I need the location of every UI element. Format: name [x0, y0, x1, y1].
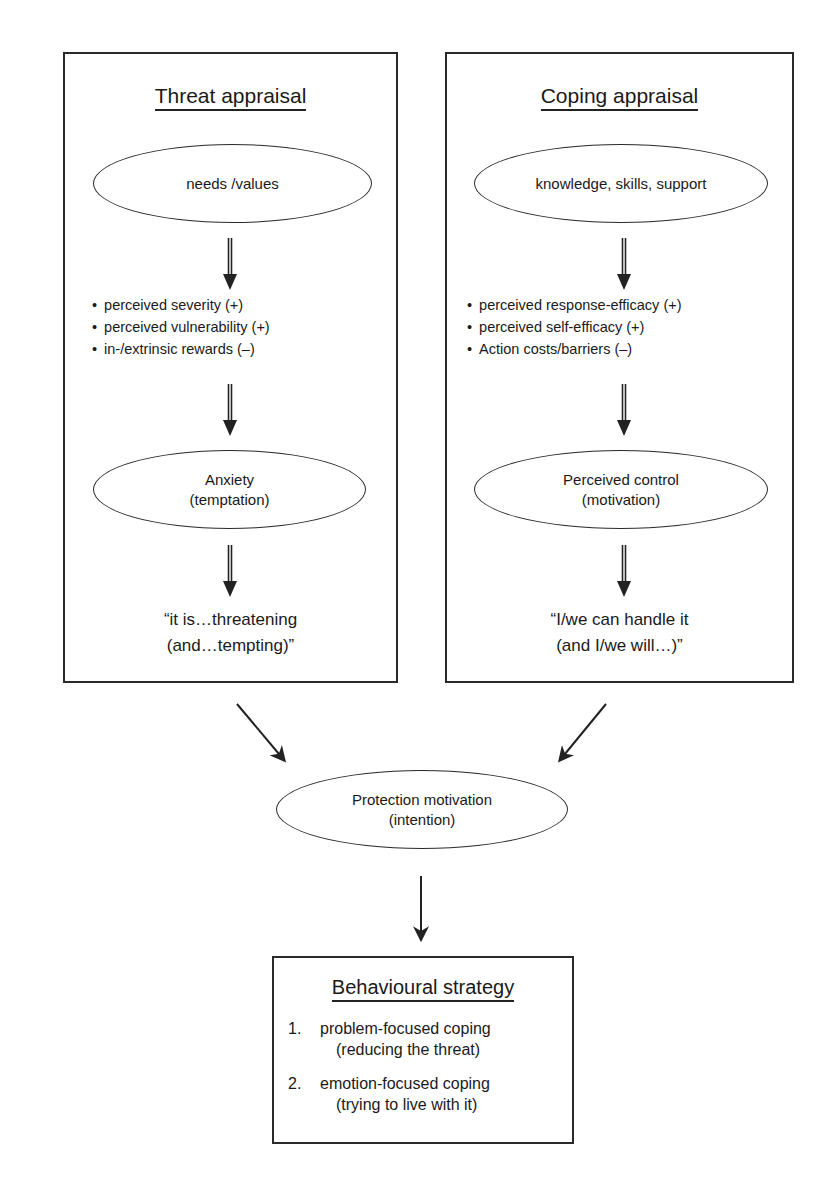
item-line2: (reducing the threat): [320, 1039, 491, 1060]
double-line-down-arrow-icon: [617, 545, 631, 597]
protection-motivation-label: Protection motivation: [352, 790, 492, 810]
coping-quote-line1: “I/we can handle it: [447, 607, 792, 633]
threat-appraisal-title-text: Threat appraisal: [155, 84, 307, 111]
needs-values-label: needs /values: [186, 174, 279, 194]
item-line1: emotion-focused coping: [320, 1073, 490, 1094]
coping-factors-list: perceived response-efficacy (+) perceive…: [467, 294, 682, 360]
motivation-label: (motivation): [582, 490, 660, 510]
double-line-down-arrow-icon: [223, 545, 237, 597]
threat-quote-line2: (and…tempting)”: [65, 633, 396, 659]
double-line-down-arrow-icon: [223, 238, 237, 290]
coping-quote-line2: (and I/we will…)”: [447, 633, 792, 659]
coping-appraisal-panel: Coping appraisal knowledge, skills, supp…: [445, 52, 794, 683]
anxiety-label: Anxiety: [205, 470, 254, 490]
threat-quote-line1: “it is…threatening: [65, 607, 396, 633]
item-number: 1.: [288, 1018, 301, 1039]
intention-label: (intention): [389, 810, 456, 830]
knowledge-skills-support-label: knowledge, skills, support: [536, 174, 707, 194]
item-number: 2.: [288, 1073, 301, 1094]
behavioural-strategy-title-text: Behavioural strategy: [332, 976, 514, 1002]
double-line-down-arrow-icon: [617, 238, 631, 290]
diagonal-arrow-icon: [237, 704, 284, 760]
threat-factors-list: perceived severity (+) perceived vulnera…: [92, 294, 270, 360]
factor-perceived-vulnerability: perceived vulnerability (+): [92, 316, 270, 338]
threat-appraisal-title: Threat appraisal: [65, 84, 396, 108]
perceived-control-node: Perceived control (motivation): [474, 450, 768, 529]
coping-appraisal-title-text: Coping appraisal: [541, 84, 699, 111]
anxiety-node: Anxiety (temptation): [93, 450, 366, 529]
factor-perceived-severity: perceived severity (+): [92, 294, 270, 316]
factor-response-efficacy: perceived response-efficacy (+): [467, 294, 682, 316]
item-line2: (trying to live with it): [320, 1094, 490, 1115]
factor-self-efficacy: perceived self-efficacy (+): [467, 316, 682, 338]
needs-values-node: needs /values: [93, 144, 372, 223]
coping-appraisal-title: Coping appraisal: [447, 84, 792, 108]
threat-appraisal-quote: “it is…threatening (and…tempting)”: [65, 607, 396, 659]
item-line1: problem-focused coping: [320, 1018, 491, 1039]
double-line-down-arrow-icon: [617, 384, 631, 436]
protection-motivation-node: Protection motivation (intention): [276, 770, 568, 849]
threat-appraisal-panel: Threat appraisal needs /values perceived…: [63, 52, 398, 683]
perceived-control-label: Perceived control: [563, 470, 679, 490]
behavioural-strategy-panel: Behavioural strategy 1. problem-focused …: [272, 956, 574, 1144]
temptation-label: (temptation): [189, 490, 269, 510]
behavioural-strategy-title: Behavioural strategy: [274, 976, 572, 999]
knowledge-skills-support-node: knowledge, skills, support: [474, 144, 768, 223]
factor-action-costs: Action costs/barriers (–): [467, 338, 682, 360]
factor-rewards: in-/extrinsic rewards (–): [92, 338, 270, 360]
coping-appraisal-quote: “I/we can handle it (and I/we will…)”: [447, 607, 792, 659]
double-line-down-arrow-icon: [223, 384, 237, 436]
diagonal-arrow-icon: [560, 704, 606, 760]
